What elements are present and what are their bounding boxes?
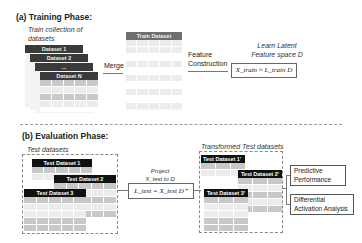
test-dataset-1-header: Test Dataset 1: [32, 159, 92, 167]
predictive-performance-line2: Performance: [294, 176, 342, 185]
merge-label: Merge: [104, 62, 124, 71]
differential-activation-line1: Differential: [294, 196, 350, 205]
train-collection-label: Train collection of datasets: [28, 26, 88, 43]
test-formula-box: L_test = X_test D⁺: [128, 183, 194, 199]
differential-activation-box: Differential Activation Analysis: [290, 194, 354, 215]
dataset-n-header: Dataset N: [40, 72, 98, 80]
dataset-n-grid: [40, 80, 98, 107]
transformed-dataset-2-header: Test Dataset 2': [238, 170, 282, 178]
merge-arrow: [103, 73, 123, 74]
latent-label-line2: Feature space D: [238, 51, 316, 60]
transformed-dataset-3: Test Dataset 3': [204, 189, 248, 231]
train-dataset: Train Dataset: [126, 32, 182, 110]
predictive-performance-line1: Predictive: [294, 167, 342, 176]
test-dataset-3-grid: [24, 197, 86, 231]
predictive-performance-box: Predictive Performance: [290, 165, 346, 186]
dataset-1-header: Dataset 1: [25, 45, 83, 53]
test-dataset-3: Test Dataset 3: [24, 189, 86, 231]
dataset-ellipsis-header: ...: [35, 63, 93, 71]
test-dataset-2-header: Test Dataset 2: [54, 175, 116, 183]
train-formula-box: X_train ≈ L_train D: [231, 63, 297, 78]
evaluation-phase-title: (b) Evaluation Phase:: [22, 131, 108, 141]
feature-construction-arrow: [188, 71, 228, 72]
test-dataset-3-header: Test Dataset 3: [24, 189, 86, 197]
train-dataset-grid: [126, 40, 182, 109]
latent-label-line1: Learn Latent: [242, 42, 312, 51]
training-phase-title: (a) Training Phase:: [16, 12, 92, 22]
transformed-dataset-1-header: Test Dataset 1': [201, 155, 245, 163]
differential-activation-line2: Activation Analysis: [294, 205, 350, 214]
output-branch-line: [286, 175, 287, 204]
dataset-2-header: Dataset 2: [30, 54, 88, 62]
dataset-n: Dataset N: [40, 72, 98, 112]
transformed-dataset-3-header: Test Dataset 3': [204, 189, 248, 197]
train-dataset-header: Train Dataset: [126, 32, 182, 40]
project-arrow-in: [118, 190, 128, 191]
phase-separator: [20, 124, 342, 125]
transformed-dataset-3-grid: [204, 197, 248, 231]
